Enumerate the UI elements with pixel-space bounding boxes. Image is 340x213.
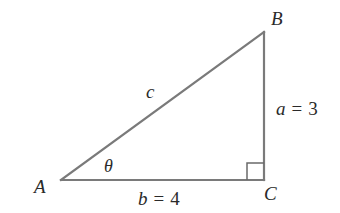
vertex-label-a: A xyxy=(32,176,46,197)
angle-theta-label: θ xyxy=(104,156,113,176)
side-a-equals: = xyxy=(292,98,303,119)
vertex-label-c: C xyxy=(264,183,277,204)
side-a-label: a=3 xyxy=(276,98,318,119)
side-b-var: b xyxy=(138,188,148,209)
side-b-value: 4 xyxy=(170,188,180,209)
side-a-var: a xyxy=(276,98,286,119)
vertex-label-b: B xyxy=(271,8,283,29)
hypotenuse-label: c xyxy=(146,81,155,102)
hypotenuse-c xyxy=(61,32,264,180)
side-b-equals: = xyxy=(154,188,165,209)
side-b-label: b=4 xyxy=(138,188,180,209)
side-a-value: 3 xyxy=(308,98,318,119)
right-angle-marker xyxy=(247,163,264,180)
right-triangle-diagram: A B C c a=3 b=4 θ xyxy=(0,0,340,213)
